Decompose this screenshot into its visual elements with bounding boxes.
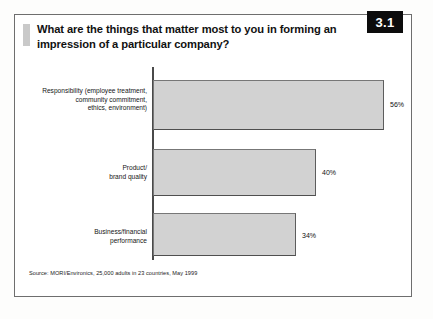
bar-chart: Responsibility (employee treatment, comm… xyxy=(15,15,413,298)
page-background: What are the things that matter most to … xyxy=(0,0,433,319)
bar-value-label: 40% xyxy=(322,169,336,176)
bar-category-label-line: Responsibility (employee treatment, xyxy=(0,87,147,96)
source-note: Source: MORI/Environics, 25,000 adults i… xyxy=(29,270,197,276)
bar-product-brand-quality xyxy=(153,149,316,196)
bar-business-financial-performance xyxy=(153,213,296,256)
bar-category-label-line: Product/ xyxy=(0,164,147,173)
bar-category-label-line: performance xyxy=(0,237,147,246)
bar-category-label: Responsibility (employee treatment, comm… xyxy=(0,87,147,113)
bar-category-label: Business/financial performance xyxy=(0,228,147,245)
bar-category-label-line: community commitment, xyxy=(0,96,147,105)
bar-category-label-line: Business/financial xyxy=(0,228,147,237)
bar-responsibility xyxy=(153,80,384,130)
figure-panel: What are the things that matter most to … xyxy=(14,14,412,297)
bar-category-label-line: brand quality xyxy=(0,173,147,182)
bar-category-label: Product/ brand quality xyxy=(0,164,147,181)
bar-value-label: 34% xyxy=(302,232,316,239)
bar-value-label: 56% xyxy=(390,101,404,108)
bar-category-label-line: ethics, environment) xyxy=(0,104,147,113)
